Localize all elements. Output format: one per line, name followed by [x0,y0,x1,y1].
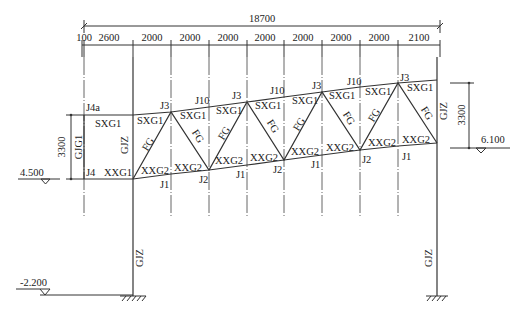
bay-dim-9: 2100 [409,32,430,43]
top-chord-label: SXG1 [95,118,121,129]
bay-dim-4: 2000 [218,32,239,43]
bottom-chord-label: XXG2 [291,146,319,157]
top-chord-label: SXG1 [137,115,163,126]
top-chord-label: SXG1 [216,105,242,116]
joint-label-j10-3: J10 [347,76,362,87]
end-post-label: GJG1 [73,135,84,160]
joint-label-j3-1: J3 [160,100,169,111]
truss-elevation-drawing: 18700 100 2600 2000 2000 2000 2000 2000 … [0,0,523,314]
column-label-right-upper: GJZ [438,102,449,120]
web-label: FG [265,118,282,136]
joint-label-j3-3: J3 [312,80,321,91]
top-chord-label: SXG1 [407,82,433,93]
column-label-right-lower: GJZ [423,249,434,267]
joint-label-j2-3: J2 [362,154,371,165]
joint-label-j10-2: J10 [270,85,285,96]
joint-label-j3-2: J3 [232,90,241,101]
bottom-chord-label: XXG2 [174,162,202,173]
joint-label-j2-2: J2 [273,164,282,175]
top-chord-label: SXG1 [180,110,206,121]
web-label: FG [216,124,233,142]
joint-label-j1-4: J1 [402,151,411,162]
web-label: FG [140,135,157,153]
elevation-ground: -2.200 [16,277,133,295]
web-label: FG [291,115,308,133]
top-chord-label: SXG1 [255,100,281,111]
top-chord-label: SXG1 [329,90,355,101]
bottom-chord-label: XXG2 [250,152,278,163]
elevation-ground-label: -2.200 [20,277,47,288]
bottom-chord-end-label: XXG1 [104,167,132,178]
joint-label-j1-3: J1 [311,159,320,170]
right-height-label: 3300 [456,105,467,126]
web-label: FG [366,106,383,124]
joint-label-j4: J4 [86,167,96,178]
elevation-right-label: 6.100 [481,134,505,145]
fixed-support-left [120,296,146,301]
bay-dim-1: 2600 [99,32,120,43]
bottom-chord-label: XXG2 [402,134,430,145]
overall-dimension-label: 18700 [249,13,275,24]
joint-label-j10-1: J10 [195,95,210,106]
left-height-label: 3300 [56,137,67,158]
bay-dim-7: 2000 [331,32,352,43]
elevation-left-label: 4.500 [20,167,44,178]
bottom-chord-label: XXG2 [215,155,243,166]
bay-dim-0: 100 [76,32,92,43]
bottom-chord-label: XXG2 [368,137,396,148]
overall-dimension: 18700 [81,13,443,33]
column-label-left-upper: GJZ [119,136,130,154]
joint-label-j2-1: J2 [199,174,208,185]
web-label: FG [190,128,207,146]
joint-label-j1-1: J1 [160,179,169,190]
joint-label-j4a: J4a [86,102,100,113]
bottom-chord-label: XXG2 [141,165,169,176]
top-chord-label: SXG1 [292,95,318,106]
fixed-support-right [426,296,448,301]
bay-dim-3: 2000 [180,32,201,43]
bay-dim-2: 2000 [142,32,163,43]
bottom-chord-label: XXG2 [326,142,354,153]
top-chord-label: SXG1 [365,86,391,97]
bay-dimensions: 100 2600 2000 2000 2000 2000 2000 2000 2… [76,32,440,57]
elevation-left: 4.500 [18,167,60,184]
bay-dim-8: 2000 [369,32,390,43]
bay-dim-6: 2000 [293,32,314,43]
bay-dim-5: 2000 [255,32,276,43]
column-label-left-lower: GJZ [134,249,145,267]
elevation-right: 6.100 [476,134,505,153]
joint-label-j1-2: J1 [236,169,245,180]
